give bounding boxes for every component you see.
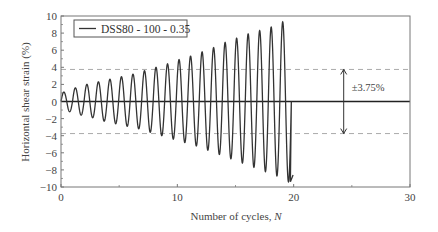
y-tick-label: −4 — [45, 130, 57, 142]
y-tick-label: −8 — [45, 164, 57, 176]
x-axis-title: Number of cycles, N — [190, 210, 282, 222]
x-axis-title-variable: N — [273, 210, 282, 222]
legend: DSS80 - 100 - 0.35 — [74, 20, 190, 37]
annotation-label: ±3.75% — [352, 82, 385, 93]
y-tick-label: 0 — [52, 96, 58, 108]
y-tick-label: 2 — [52, 78, 58, 90]
x-tick-label: 20 — [288, 191, 300, 203]
x-tick-label: 10 — [172, 191, 184, 203]
y-tick-label: 6 — [52, 44, 58, 56]
y-tick-label: −6 — [45, 147, 57, 159]
y-tick-label: 10 — [46, 10, 58, 22]
y-axis-title: Horizontal shear strain (%) — [19, 42, 32, 162]
chart-canvas: 1086420−2−4−6−8−10 0102030 ±3.75% DSS80 … — [0, 0, 438, 232]
y-tick-label: 4 — [52, 61, 58, 73]
y-tick-label: −10 — [40, 181, 58, 193]
y-tick-label: −2 — [45, 113, 57, 125]
y-axis-ticks: 1086420−2−4−6−8−10 — [40, 10, 64, 193]
x-tick-label: 30 — [405, 191, 417, 203]
legend-label: DSS80 - 100 - 0.35 — [101, 23, 190, 35]
y-tick-label: 8 — [52, 27, 58, 39]
x-tick-label: 0 — [58, 191, 64, 203]
x-axis-title-main: Number of cycles, — [190, 210, 274, 222]
